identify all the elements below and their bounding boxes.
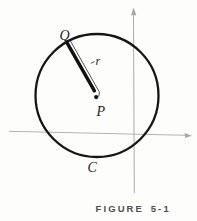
y-axis-arrowhead [131, 8, 136, 16]
label-Q: Q [60, 28, 70, 43]
x-axis-line [9, 131, 187, 135]
radius-label-leader [91, 62, 95, 64]
x-axis-arrowhead [185, 133, 192, 138]
label-P: P [96, 104, 106, 119]
center-point-P-dot [94, 95, 98, 99]
figure-caption: FIGURE 5-1 [96, 203, 171, 214]
y-axis-line [134, 14, 135, 194]
radius-PQ [67, 41, 100, 100]
label-C: C [88, 160, 98, 175]
figure-canvas: Q r P C FIGURE 5-1 [0, 0, 197, 221]
radius-segment-thick [67, 42, 95, 91]
label-r: r [96, 54, 101, 68]
